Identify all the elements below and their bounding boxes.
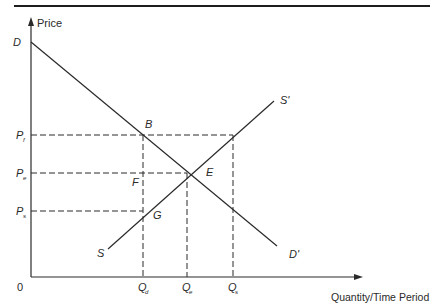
point-e-label: E (206, 166, 214, 178)
x-axis-arrow-icon (354, 274, 363, 280)
quantity-label-qe: Q e (182, 281, 193, 295)
svg-text:e: e (23, 175, 27, 181)
svg-text:f: f (23, 137, 26, 143)
quantity-label-qs: Q s (228, 281, 238, 295)
y-axis-arrow-icon (28, 17, 34, 26)
svg-text:s: s (235, 289, 238, 295)
supply-curve (108, 101, 274, 249)
price-label-ps: P s (16, 205, 26, 219)
demand-end-label: D' (289, 248, 300, 260)
price-label-pe: P e (16, 167, 27, 181)
price-label-pf: P f (16, 129, 26, 143)
axes (28, 17, 363, 280)
svg-text:e: e (189, 289, 193, 295)
y-axis-label: Price (37, 17, 62, 29)
supply-start-label: S (97, 247, 105, 259)
supply-demand-diagram: Price Quantity/Time Period 0 D D' S S' P… (0, 0, 430, 306)
svg-text:d: d (145, 289, 149, 295)
point-b-label: B (145, 118, 152, 130)
point-g-label: G (153, 209, 162, 221)
x-axis-label: Quantity/Time Period (331, 291, 429, 303)
origin-label: 0 (17, 281, 23, 293)
svg-text:s: s (23, 213, 26, 219)
guide-lines (31, 135, 233, 277)
supply-end-label: S' (280, 94, 290, 106)
quantity-label-qd: Q d (138, 281, 149, 295)
demand-start-label: D (13, 36, 21, 48)
point-f-label: F (132, 176, 140, 188)
